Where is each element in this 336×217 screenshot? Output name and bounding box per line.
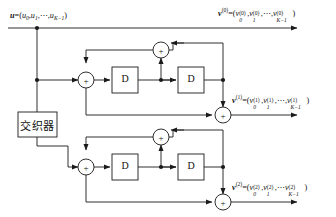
- lower-output-adder-symbol: +: [215, 198, 231, 208]
- turbo-encoder-diagram: u=(u0,u1,⋯,uK−1) v(0)=(v(0)0,v(0)1,⋯,v(0…: [0, 0, 336, 217]
- input-upper-junction: [35, 78, 39, 82]
- parity1-output-label: v(1)=(v(1)0,v(1)1,⋯,v(1)K−1): [232, 97, 309, 105]
- input-sequence-label: u=(u0,u1,⋯,uK−1): [10, 12, 67, 20]
- upper-delay-1-label: D: [112, 73, 138, 84]
- systematic-output-label: v(0)=(v(0)0,v(0)1,⋯,v(0)K−1): [218, 10, 295, 18]
- lower-input-adder-symbol: +: [78, 163, 94, 173]
- input-top-junction: [35, 26, 39, 30]
- upper-feedback-adder-symbol: +: [153, 46, 169, 56]
- lower-feedback-adder-symbol: +: [153, 133, 169, 143]
- upper-delay-2-label: D: [178, 73, 204, 84]
- upper-input-adder-symbol: +: [78, 76, 94, 86]
- upper-output-adder-symbol: +: [215, 111, 231, 121]
- parity2-output-label: v(2)=(v(2)0,v(2)1,⋯v(2)K−1): [232, 184, 307, 192]
- lower-delay-2-label: D: [178, 160, 204, 171]
- interleaver-label: 交织器: [18, 117, 57, 133]
- lower-delay-1-label: D: [112, 160, 138, 171]
